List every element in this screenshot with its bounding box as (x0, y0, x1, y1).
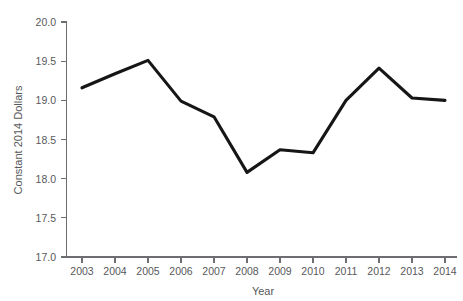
y-tick-marks (61, 22, 67, 257)
x-tick-marks (82, 257, 445, 263)
y-tick-label-17-5: 17.5 (36, 212, 57, 224)
y-tick-label-18-5: 18.5 (36, 134, 57, 146)
x-tick-label-2012: 2012 (367, 265, 391, 277)
line-chart: 20.0 19.5 19.0 18.5 18.0 17.5 17.0 2003 (0, 0, 463, 301)
data-series-line (82, 60, 445, 172)
x-axis-title: Year (252, 285, 275, 297)
x-tick-labels: 2003 2004 2005 2006 2007 2008 2009 2010 … (70, 265, 457, 277)
x-tick-label-2006: 2006 (169, 265, 193, 277)
x-tick-label-2009: 2009 (268, 265, 292, 277)
x-tick-label-2003: 2003 (70, 265, 94, 277)
x-tick-label-2013: 2013 (400, 265, 424, 277)
y-tick-labels: 20.0 19.5 19.0 18.5 18.0 17.5 17.0 (36, 16, 57, 263)
y-tick-label-19-0: 19.0 (36, 94, 57, 106)
x-tick-label-2005: 2005 (136, 265, 160, 277)
y-tick-label-18-0: 18.0 (36, 173, 57, 185)
x-tick-label-2011: 2011 (335, 265, 358, 277)
y-tick-label-17-0: 17.0 (36, 251, 57, 263)
y-tick-label-19-5: 19.5 (36, 55, 57, 67)
x-tick-label-2008: 2008 (235, 265, 259, 277)
x-tick-label-2007: 2007 (202, 265, 226, 277)
x-tick-label-2014: 2014 (433, 265, 457, 277)
y-axis-title: Constant 2014 Dollars (12, 85, 24, 194)
y-tick-label-20-0: 20.0 (36, 16, 57, 28)
x-tick-label-2010: 2010 (301, 265, 325, 277)
chart-canvas: 20.0 19.5 19.0 18.5 18.0 17.5 17.0 2003 (0, 0, 463, 301)
x-tick-label-2004: 2004 (103, 265, 127, 277)
